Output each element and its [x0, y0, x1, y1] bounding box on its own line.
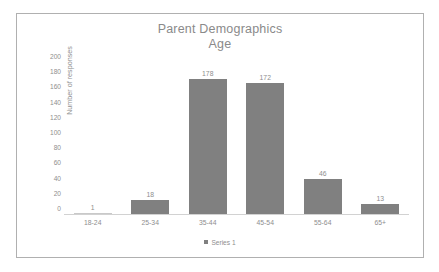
bar-value-label: 46 — [319, 170, 327, 177]
y-axis-tick: 40 — [37, 174, 61, 181]
chart-title-line-1: Parent Demographics — [158, 22, 283, 36]
bar-value-label: 18 — [146, 191, 154, 198]
bar-slot: 172 — [237, 62, 295, 214]
y-axis-tick: 100 — [37, 129, 61, 136]
legend-entry-label: Series 1 — [211, 239, 235, 246]
y-axis-tick: 60 — [37, 159, 61, 166]
bar-65+[interactable] — [361, 204, 399, 214]
y-axis-tick: 20 — [37, 189, 61, 196]
bar-slot: 18 — [122, 62, 180, 214]
bar-value-label: 178 — [202, 70, 213, 77]
bar-value-label: 172 — [260, 74, 271, 81]
x-axis-tick-labels: 18-2425-3435-4445-5455-6465+ — [64, 219, 409, 233]
y-axis-tick: 80 — [37, 144, 61, 151]
legend-swatch-icon — [204, 240, 208, 244]
x-axis-tick-25-34: 25-34 — [122, 219, 180, 226]
y-axis-tick-labels: 200180160140120100806040200 — [37, 56, 61, 208]
chart-legend: Series 1 — [17, 238, 423, 246]
bar-value-label: 1 — [91, 204, 95, 211]
bar-slot: 178 — [179, 62, 237, 214]
y-axis-tick: 0 — [37, 205, 61, 212]
chart-title-line-2: Age — [17, 37, 423, 52]
bar-18-24[interactable] — [74, 213, 112, 214]
x-axis-tick-18-24: 18-24 — [64, 219, 122, 226]
bar-slot: 13 — [352, 62, 410, 214]
chart-title: Parent Demographics Age — [17, 22, 423, 52]
chart-container: Parent Demographics Age Number of respon… — [16, 13, 424, 258]
y-axis-tick: 120 — [37, 113, 61, 120]
x-axis-tick-55-64: 55-64 — [294, 219, 352, 226]
bar-slot: 1 — [64, 62, 122, 214]
bar-25-34[interactable] — [131, 200, 169, 214]
category-axis-line — [64, 214, 409, 215]
bar-55-64[interactable] — [304, 179, 342, 214]
plot-area: 1181781724613 — [64, 62, 409, 214]
bar-slot: 46 — [294, 62, 352, 214]
bar-value-label: 13 — [376, 195, 384, 202]
y-axis-tick: 140 — [37, 98, 61, 105]
y-axis-tick: 200 — [37, 53, 61, 60]
y-axis-tick: 160 — [37, 83, 61, 90]
x-axis-tick-35-44: 35-44 — [179, 219, 237, 226]
x-axis-tick-65+: 65+ — [352, 219, 410, 226]
bar-45-54[interactable] — [246, 83, 284, 214]
bar-35-44[interactable] — [189, 79, 227, 214]
x-axis-tick-45-54: 45-54 — [237, 219, 295, 226]
y-axis-tick: 180 — [37, 68, 61, 75]
